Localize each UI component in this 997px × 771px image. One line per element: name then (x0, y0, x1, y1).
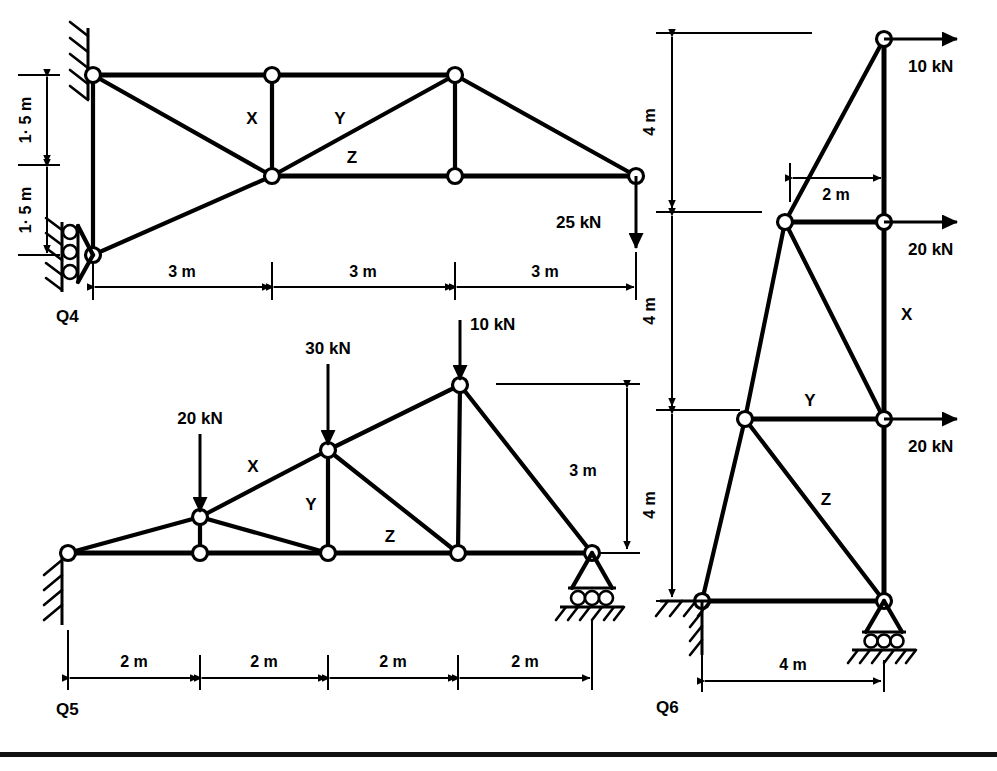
q6-figure-label: Q6 (656, 698, 679, 717)
q6-load-20kn-mid: 20 kN (884, 222, 957, 259)
q6-truss-nodes (695, 32, 892, 609)
q6-member-y-label: Y (804, 391, 816, 410)
diagram-sheet: 25 kN X Y Z 3 m 3 m 3 m 1· 5 m 1· 5 (0, 0, 997, 771)
footer-divider-rule (0, 752, 997, 757)
q6-truss-members (702, 39, 884, 601)
q6-dim-v2-label: 4 m (641, 297, 658, 325)
q6-dim-h-base-label: 4 m (779, 656, 807, 673)
q6-load-10kn: 10 kN (884, 39, 957, 76)
q6-roller-support-right (848, 601, 916, 663)
q6-pin-support-left (656, 601, 712, 655)
q6-load-20kn-low: 20 kN (884, 419, 957, 456)
figure-q6: 10 kN 20 kN 20 kN X Y Z 2 m 4 (0, 0, 997, 771)
q6-load2-label: 20 kN (908, 240, 953, 259)
q6-vertical-dimensions: 4 m 4 m 4 m (641, 33, 812, 601)
q6-load1-label: 10 kN (908, 57, 953, 76)
q6-load3-label: 20 kN (908, 437, 953, 456)
q6-member-x-label: X (901, 305, 913, 324)
q6-top-width-dimension: 2 m (790, 163, 881, 203)
q6-dim-v3-label: 4 m (641, 491, 658, 519)
q6-member-z-label: Z (821, 490, 831, 509)
q6-dim-h-top-label: 2 m (822, 186, 850, 203)
q6-dim-v1-label: 4 m (641, 108, 658, 136)
